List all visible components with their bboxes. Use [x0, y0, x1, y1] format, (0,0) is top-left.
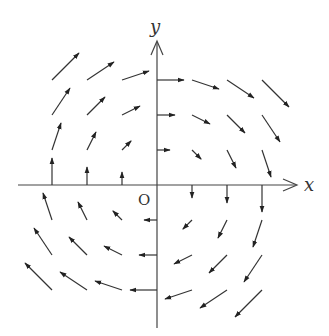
vector-arrow-icon: [262, 115, 280, 142]
origin-label: O: [138, 191, 150, 209]
vector-arrow-icon: [174, 255, 192, 264]
vector-arrow-icon: [60, 272, 87, 290]
vector-arrow-icon: [192, 150, 201, 159]
y-axis: y: [149, 16, 163, 328]
vector-arrow-icon: [183, 220, 192, 229]
vector-arrow-icon: [25, 263, 52, 290]
y-axis-label: y: [149, 16, 161, 37]
vector-arrow-icon: [122, 106, 140, 115]
vector-arrow-icon: [192, 115, 210, 124]
vector-arrow-icon: [262, 150, 271, 177]
vector-arrow-icon: [87, 97, 105, 115]
vector-arrow-icon: [34, 228, 52, 255]
vector-arrow-icon: [104, 246, 122, 255]
vector-arrow-icon: [165, 290, 192, 299]
vector-arrow-icon: [69, 237, 87, 255]
vector-arrow-icon: [209, 255, 227, 273]
vector-arrow-icon: [122, 141, 131, 150]
vector-arrow-icon: [227, 80, 254, 98]
x-axis-label: x: [304, 174, 314, 195]
vector-arrow-icon: [78, 202, 87, 220]
vector-arrow-icon: [262, 80, 289, 107]
vector-arrow-icon: [52, 88, 70, 115]
vector-arrow-icon: [218, 220, 227, 238]
vector-arrow-icon: [87, 132, 96, 150]
vector-arrow-icon: [52, 53, 79, 80]
vector-arrow-icon: [122, 71, 149, 80]
vector-arrow-icon: [192, 80, 219, 89]
vector-arrow-icon: [95, 281, 122, 290]
x-axis: x: [18, 174, 314, 195]
vector-arrow-icon: [113, 211, 122, 220]
vector-arrow-icon: [52, 123, 61, 150]
vector-arrow-icon: [87, 62, 114, 80]
vector-arrow-icon: [200, 290, 227, 308]
vector-arrow-icon: [43, 193, 52, 220]
vector-arrow-icon: [253, 220, 262, 247]
vector-arrow-icon: [227, 150, 236, 168]
vector-arrow-icon: [235, 290, 262, 317]
vector-arrow-icon: [227, 115, 245, 133]
vector-field-diagram: x y O: [0, 0, 329, 336]
vector-arrow-icon: [244, 255, 262, 282]
